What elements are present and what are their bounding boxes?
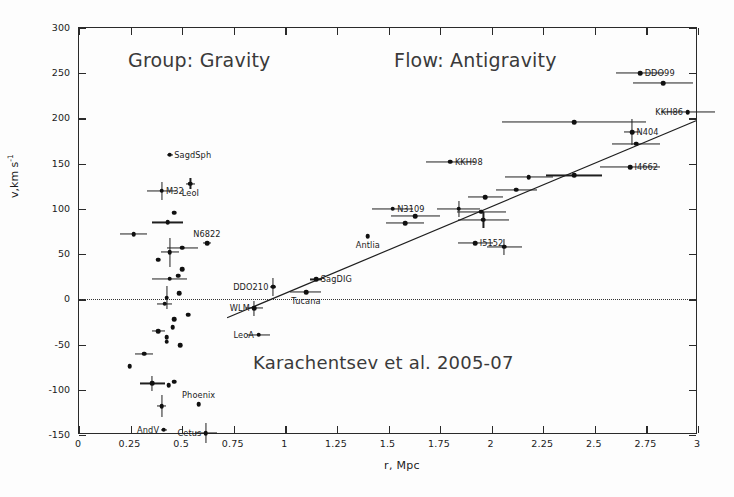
data-point xyxy=(514,188,519,193)
data-point xyxy=(172,317,177,322)
data-point-label: Antlia xyxy=(356,240,380,250)
data-point xyxy=(164,295,169,300)
data-point xyxy=(177,291,182,296)
y-tick-label-1: -100 xyxy=(0,383,70,394)
data-point-label: LeoI xyxy=(182,188,199,198)
y-tick-0 xyxy=(79,435,86,436)
data-point-label: AndV xyxy=(137,425,159,435)
data-point xyxy=(256,332,261,337)
data-point xyxy=(473,241,478,246)
data-point xyxy=(171,325,176,330)
data-point xyxy=(413,214,418,219)
y-tick-label-5: 100 xyxy=(0,202,70,213)
data-point xyxy=(172,210,177,215)
y-tick-label-8: 250 xyxy=(0,67,70,78)
data-point xyxy=(167,250,172,255)
x-tick-label-2: 0.5 xyxy=(173,438,189,449)
data-point xyxy=(186,312,191,317)
x-tick-label-7: 1.75 xyxy=(428,438,450,449)
data-point xyxy=(167,152,172,157)
x-tick-label-5: 1.25 xyxy=(325,438,347,449)
data-point xyxy=(572,120,577,125)
x-tick-label-10: 2.5 xyxy=(586,438,602,449)
data-point xyxy=(205,241,210,246)
y-tick-label-3: 0 xyxy=(0,293,70,304)
data-point xyxy=(166,383,171,388)
x-tick-label-0: 0 xyxy=(75,438,81,449)
data-point xyxy=(527,175,532,180)
data-point-label: N404 xyxy=(636,127,658,137)
data-point xyxy=(162,302,167,307)
data-point xyxy=(634,141,639,146)
x-tick-top-12 xyxy=(698,28,699,35)
data-point-label: DDO210 xyxy=(233,282,268,292)
x-tick-label-3: 0.75 xyxy=(222,438,244,449)
y-tick-label-9: 300 xyxy=(0,22,70,33)
data-point xyxy=(481,217,486,222)
data-point xyxy=(390,207,395,212)
data-point-label: I4662 xyxy=(634,162,658,172)
x-tick-label-1: 0.25 xyxy=(119,438,141,449)
figure-root: v,km s-1 r, Mpc -150-100-500501001502002… xyxy=(0,0,734,497)
data-point xyxy=(127,364,132,369)
data-point-label: SagDIG xyxy=(321,274,352,284)
data-point-label: Cetus xyxy=(177,428,201,438)
data-point xyxy=(366,234,371,239)
data-point-label: LeoA xyxy=(234,330,254,340)
data-point xyxy=(159,404,164,409)
data-point-label: N3109 xyxy=(397,204,424,214)
data-point xyxy=(204,431,209,436)
data-point-label: SagdSph xyxy=(174,150,211,160)
y-tick-label-4: 50 xyxy=(0,248,70,259)
data-point xyxy=(196,402,201,407)
data-point-label: Tucana xyxy=(291,296,320,306)
data-point-label: Phoenix xyxy=(182,390,215,400)
y-tick-label-7: 200 xyxy=(0,112,70,123)
data-point xyxy=(252,306,257,311)
data-point xyxy=(172,379,177,384)
x-tick-label-6: 1.5 xyxy=(380,438,396,449)
data-point-label: KKH86 xyxy=(655,107,683,117)
data-point xyxy=(685,110,690,115)
data-point xyxy=(150,381,155,386)
data-point xyxy=(156,329,161,334)
data-point xyxy=(165,220,170,225)
data-point xyxy=(167,276,172,281)
data-point-label: N6822 xyxy=(193,229,220,239)
annotation-flow-antigravity: Flow: Antigravity xyxy=(394,49,557,71)
data-point xyxy=(164,340,169,345)
x-tick-label-8: 2 xyxy=(488,438,494,449)
data-point xyxy=(156,257,161,262)
data-point xyxy=(180,267,185,272)
x-tick-label-11: 2.75 xyxy=(634,438,656,449)
y-tick-label-2: -50 xyxy=(0,338,70,349)
data-point xyxy=(314,277,319,282)
data-point xyxy=(188,181,193,186)
x-tick-label-4: 1 xyxy=(281,438,287,449)
data-point xyxy=(630,130,635,135)
data-point xyxy=(178,343,183,348)
data-point-label: DDO99 xyxy=(645,68,675,78)
data-point xyxy=(142,351,147,356)
data-point xyxy=(448,160,453,165)
data-point xyxy=(180,245,185,250)
x-tick-label-9: 2.25 xyxy=(531,438,553,449)
data-point xyxy=(131,232,136,237)
data-point xyxy=(271,284,276,289)
y-tick-label-6: 150 xyxy=(0,157,70,168)
x-tick-label-12: 3 xyxy=(694,438,700,449)
data-point xyxy=(502,245,507,250)
data-point xyxy=(483,195,488,200)
data-point xyxy=(572,173,577,178)
data-point xyxy=(159,189,164,194)
data-point-label: KKH98 xyxy=(455,157,483,167)
data-point xyxy=(628,165,633,170)
data-point xyxy=(304,290,309,295)
data-point xyxy=(661,81,666,86)
data-point xyxy=(403,221,408,226)
data-point xyxy=(161,427,166,432)
y-tick-label-0: -150 xyxy=(0,429,70,440)
data-point xyxy=(638,71,643,76)
annotation-credit: Karachentsev et al. 2005-07 xyxy=(253,352,514,373)
data-point-label: WLM xyxy=(230,303,250,313)
